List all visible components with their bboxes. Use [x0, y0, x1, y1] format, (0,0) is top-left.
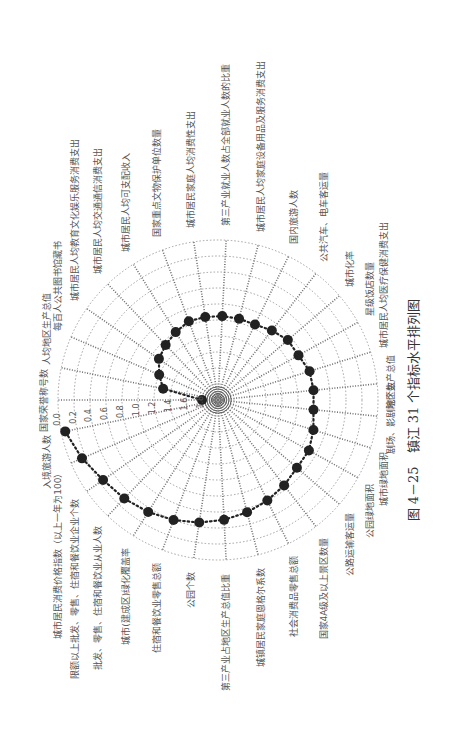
data-point: [154, 370, 164, 380]
axis-label: 每百人公共图书馆藏书: [52, 241, 63, 331]
radial-tick-label: 0.0: [53, 413, 62, 426]
data-point: [305, 366, 315, 376]
axis-label: 住宿和餐饮业零售总额: [151, 563, 162, 653]
data-point: [158, 384, 168, 394]
axis-label: 城市居民人均可支配收入: [120, 153, 131, 252]
axis-label: 入境旅游人数: [41, 435, 52, 489]
axis-label: 公园个数: [185, 572, 196, 608]
axis-label: 公园绿地面积: [364, 484, 375, 538]
axis-label: 城市居民人均医疗保健消费支出: [378, 222, 389, 348]
axis-label: 第三产业占地区生产总值比重: [220, 574, 231, 691]
axis-spoke: [218, 400, 226, 560]
data-point: [219, 515, 229, 525]
axis-label: 城市居民人均教育文化娱乐服务消费支出: [69, 139, 80, 301]
axis-spoke: [71, 337, 218, 400]
data-point: [304, 445, 314, 455]
data-point: [184, 316, 194, 326]
figure-caption: 图 4－25 镇江 31 个指标水平排列图: [406, 299, 421, 522]
radial-tick-label: 0.4: [84, 409, 93, 422]
axis-label: 国家荣誉称号数: [38, 369, 49, 432]
data-point: [309, 385, 319, 395]
radial-tick-label: 1.4: [164, 400, 173, 413]
axis-label: 城市居民人均家庭设备用品及服务消费支出: [255, 61, 266, 232]
axis-spoke: [218, 273, 316, 400]
data-point: [169, 515, 179, 525]
axis-label: 人均地区生产总值: [41, 293, 52, 365]
data-point: [309, 405, 319, 415]
axis-label: 批发、零售、住宿和餐饮业从业人数: [92, 526, 103, 670]
axis-label: 剧场、影剧院个数: [385, 382, 396, 454]
axis-label: 城市居民人均交通通信消费支出: [92, 148, 103, 274]
data-point: [292, 463, 302, 473]
data-point: [283, 335, 293, 345]
axis-spoke: [218, 400, 371, 448]
data-point: [119, 494, 129, 504]
axis-label: 国家重点文物保护单位数量: [151, 129, 162, 237]
data-point: [60, 426, 70, 436]
data-point: [98, 475, 108, 485]
axis-label: 城市化率: [344, 251, 355, 287]
axis-label: 公路运输客运量: [344, 513, 355, 576]
data-point: [267, 325, 277, 335]
axis-spoke: [87, 309, 218, 400]
axis-label: 第三产业就业人数占全部就业人数的比重: [220, 64, 231, 226]
axis-label: 社会消费品零售总额: [288, 556, 299, 637]
data-point: [279, 480, 289, 490]
radial-tick-label: 1.8: [196, 396, 205, 409]
data-point: [234, 314, 244, 324]
data-point: [250, 320, 260, 330]
data-point: [262, 496, 272, 506]
data-point: [200, 312, 210, 322]
data-point: [161, 340, 171, 350]
axis-labels: 国家荣誉称号数人均地区生产总值每百人公共图书馆藏书城市居民人均教育文化娱乐服务消…: [38, 61, 396, 691]
radial-tick-label: 1.6: [180, 398, 189, 411]
data-point: [308, 425, 318, 435]
data-point: [171, 327, 181, 337]
axis-label: 城市居民消费价格指数（以上一年为100）: [52, 469, 63, 639]
axis-label: 城市居民家庭人均消费性支出: [185, 111, 196, 228]
axis-label: 公共汽车、电车客运量: [318, 172, 329, 262]
axis-label: 城镇居民家庭恩格尔系数: [255, 568, 266, 667]
radial-tick-label: 1.2: [148, 402, 157, 415]
radial-tick-label: 0.6: [100, 407, 109, 420]
data-point: [154, 354, 164, 364]
axis-label: 国家4A级及以上景区数量: [318, 538, 329, 640]
axis-spoke: [218, 400, 358, 478]
data-point: [77, 453, 87, 463]
polar-chart: 国家荣誉称号数人均地区生产总值每百人公共图书馆藏书城市居民人均教育文化娱乐服务消…: [0, 0, 449, 734]
data-point: [217, 311, 227, 321]
data-point: [143, 507, 153, 517]
radial-tick-label: 0.2: [69, 411, 78, 424]
axis-label: 城市绿地面积: [378, 452, 389, 506]
data-point: [194, 518, 204, 528]
data-point: [293, 350, 303, 360]
radial-tick-label: 1.0: [132, 403, 141, 416]
radial-tick-label: 0.8: [116, 405, 125, 418]
axis-label: 星级饭店数量: [364, 262, 375, 316]
axis-label: 城市(建成区)绿化覆盖率: [120, 548, 131, 645]
data-point: [242, 507, 252, 517]
axis-label: 限额以上批发、零售、住宿和餐饮业企业个数: [69, 499, 80, 679]
axis-label: 国内旅游人数: [288, 190, 299, 244]
